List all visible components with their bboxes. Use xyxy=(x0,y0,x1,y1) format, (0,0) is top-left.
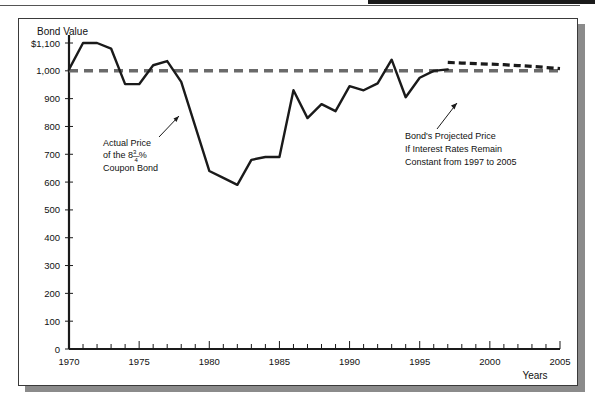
annotation-left-line2-prefix: of the 8 xyxy=(103,150,133,160)
bond-value-line-chart: Bond Value 01002003004005006007008009001… xyxy=(19,19,577,385)
top-rule-dark-segment xyxy=(368,0,595,4)
x-axis-title: Years xyxy=(522,370,547,381)
y-axis-title: Bond Value xyxy=(37,26,88,37)
annotation-left-line1: Actual Price xyxy=(103,138,151,148)
y-axis-tick-label: 300 xyxy=(44,260,60,271)
x-axis-tick-label: 2005 xyxy=(549,356,570,367)
annotation-right-line3: Constant from 1997 to 2005 xyxy=(405,157,517,167)
y-axis-tick-label: 1,000 xyxy=(36,65,60,76)
x-axis-tick-label: 1990 xyxy=(339,356,360,367)
y-axis-tick-label: 700 xyxy=(44,149,60,160)
axes xyxy=(69,35,560,349)
y-axis-tick-label: 600 xyxy=(44,177,60,188)
annotation-right-line2: If Interest Rates Remain xyxy=(405,144,502,154)
y-axis-tick-label: 400 xyxy=(44,232,60,243)
x-axis-tick-label: 1975 xyxy=(129,356,150,367)
y-axis-tick-label: 100 xyxy=(44,316,60,327)
actual-price-annotation: Actual Price of the 83―4% Coupon Bond xyxy=(103,116,179,173)
top-rule xyxy=(0,0,595,4)
x-axis-ticks: 19701975198019851990199520002005 xyxy=(58,341,570,367)
x-axis-tick-label: 1985 xyxy=(269,356,290,367)
top-rule-thin-line xyxy=(0,5,580,6)
y-axis-tick-label: $1,100 xyxy=(31,38,60,49)
figure-page: Bond Value 01002003004005006007008009001… xyxy=(0,0,595,411)
x-axis-tick-label: 1995 xyxy=(409,356,430,367)
chart-card: Bond Value 01002003004005006007008009001… xyxy=(18,18,578,386)
annotation-left-line2-suffix: % xyxy=(139,150,147,160)
x-axis-tick-label: 2000 xyxy=(479,356,500,367)
annotation-arrowhead-right xyxy=(451,103,457,110)
projected-price-line xyxy=(448,62,560,68)
y-axis-tick-label: 500 xyxy=(44,204,60,215)
x-axis-tick-label: 1970 xyxy=(58,356,79,367)
y-axis-ticks: 01002003004005006007008009001,000$1,100 xyxy=(31,38,73,355)
annotation-left-line2: of the 83―4% xyxy=(103,149,147,163)
y-axis-tick-label: 800 xyxy=(44,121,60,132)
annotation-left-line3: Coupon Bond xyxy=(103,163,158,173)
annotation-right-line1: Bond's Projected Price xyxy=(405,131,496,141)
y-axis-tick-label: 900 xyxy=(44,93,60,104)
projected-price-annotation: Bond's Projected Price If Interest Rates… xyxy=(405,103,517,167)
y-axis-tick-label: 0 xyxy=(55,344,60,355)
x-axis-tick-label: 1980 xyxy=(199,356,220,367)
y-axis-tick-label: 200 xyxy=(44,288,60,299)
